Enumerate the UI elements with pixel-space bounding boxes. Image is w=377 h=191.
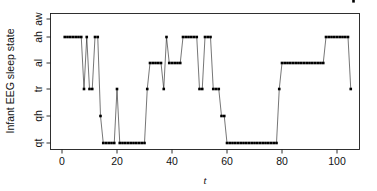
data-point: [231, 142, 234, 145]
data-point: [228, 142, 231, 145]
data-point: [127, 142, 130, 145]
x-tick-label-20: 20: [111, 155, 123, 167]
data-point: [300, 62, 303, 65]
data-point: [322, 62, 325, 65]
data-point: [118, 142, 121, 145]
data-point: [168, 62, 171, 65]
data-point: [286, 62, 289, 65]
data-point: [154, 62, 157, 65]
data-point: [96, 36, 99, 39]
data-point: [308, 62, 311, 65]
data-point: [344, 36, 347, 39]
data-point: [140, 142, 143, 145]
data-point: [259, 142, 262, 145]
data-point: [267, 142, 270, 145]
data-point: [135, 142, 138, 145]
data-point: [116, 88, 119, 91]
x-tick-100: 100: [328, 150, 346, 168]
data-point: [289, 62, 292, 65]
data-point: [338, 36, 341, 39]
data-point: [278, 88, 281, 91]
data-point: [129, 142, 132, 145]
data-point: [272, 142, 275, 145]
data-point: [198, 88, 201, 91]
data-point: [220, 115, 223, 118]
data-point: [294, 62, 297, 65]
data-point: [204, 36, 207, 39]
data-point: [333, 36, 336, 39]
x-axis-group: 0 20 40 60 80 100: [59, 150, 346, 168]
data-point: [341, 36, 344, 39]
data-point: [83, 88, 86, 91]
data-point: [237, 142, 240, 145]
data-point: [105, 142, 108, 145]
data-point: [160, 62, 163, 65]
step-connector-path: [65, 37, 351, 143]
x-tick-label-40: 40: [166, 155, 178, 167]
data-point: [63, 36, 66, 39]
y-tick-ah: ah: [32, 31, 51, 43]
x-tick-label-80: 80: [276, 155, 288, 167]
data-point: [261, 142, 264, 145]
data-point: [146, 88, 149, 91]
data-point: [352, 0, 355, 3]
data-point: [215, 88, 218, 91]
data-point: [281, 62, 284, 65]
data-point: [66, 36, 69, 39]
data-point: [275, 142, 278, 145]
data-point: [179, 62, 182, 65]
data-point: [171, 62, 174, 65]
data-point: [182, 36, 185, 39]
data-point: [99, 115, 102, 118]
data-point: [314, 62, 317, 65]
x-tick-20: 20: [111, 150, 123, 168]
data-point: [193, 36, 196, 39]
data-point: [149, 62, 152, 65]
data-point: [264, 142, 267, 145]
eeg-sleep-state-figure: qt qh tr al ah aw: [0, 0, 377, 191]
data-point: [305, 62, 308, 65]
x-tick-label-0: 0: [59, 155, 65, 167]
data-point: [121, 142, 124, 145]
data-point: [327, 36, 330, 39]
y-tick-label-tr: tr: [32, 85, 44, 92]
x-tick-60: 60: [221, 150, 233, 168]
data-point: [107, 142, 110, 145]
y-tick-aw: aw: [32, 12, 51, 26]
data-point: [330, 36, 333, 39]
y-tick-tr: tr: [32, 85, 51, 92]
data-point: [270, 142, 273, 145]
plot-frame: [51, 14, 360, 150]
data-point: [88, 88, 91, 91]
data-point: [325, 36, 328, 39]
y-tick-label-qt: qt: [32, 139, 44, 148]
x-tick-0: 0: [59, 150, 65, 168]
data-point: [206, 36, 209, 39]
data-point: [132, 142, 135, 145]
data-point: [234, 142, 237, 145]
scatter-plot-canvas: qt qh tr al ah aw: [0, 0, 377, 191]
y-axis-group: qt qh tr al ah aw: [32, 12, 51, 148]
data-point: [256, 142, 259, 145]
data-point: [162, 88, 165, 91]
data-point: [217, 88, 220, 91]
y-tick-label-aw: aw: [32, 12, 44, 26]
y-tick-qh: qh: [32, 110, 51, 122]
data-point: [283, 62, 286, 65]
data-point: [303, 62, 306, 65]
data-point: [190, 36, 193, 39]
data-point: [184, 36, 187, 39]
data-point: [336, 36, 339, 39]
y-tick-label-al: al: [32, 59, 44, 67]
data-point: [138, 142, 141, 145]
data-point: [187, 36, 190, 39]
data-point: [349, 88, 352, 91]
data-point: [102, 142, 105, 145]
data-point: [151, 62, 154, 65]
data-point: [143, 142, 146, 145]
data-point: [157, 62, 160, 65]
data-point: [94, 36, 97, 39]
data-point: [209, 36, 212, 39]
data-point: [253, 142, 256, 145]
data-point: [80, 36, 83, 39]
